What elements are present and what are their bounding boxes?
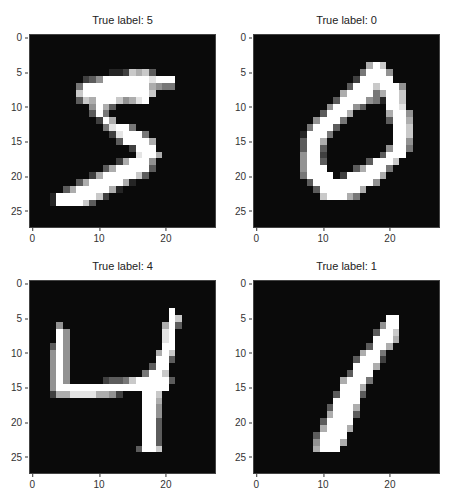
y-tick-label: 25: [2, 205, 22, 216]
x-tick-label: 0: [30, 233, 36, 244]
y-tick-label: 0: [226, 278, 246, 289]
y-tick-label: 20: [2, 171, 22, 182]
y-tick-label: 5: [226, 67, 246, 78]
subplot-title: True label: 0: [316, 14, 377, 26]
subplot-title: True label: 4: [92, 260, 153, 272]
x-tick-label: 0: [30, 479, 36, 490]
subplot-title: True label: 5: [92, 14, 153, 26]
y-tick-label: 15: [226, 136, 246, 147]
x-tick-label: 20: [384, 233, 395, 244]
x-tick-label: 0: [254, 479, 260, 490]
y-tick-label: 10: [2, 347, 22, 358]
y-tick-label: 25: [226, 205, 246, 216]
x-tick-label: 10: [318, 479, 329, 490]
y-tick-label: 5: [226, 313, 246, 324]
x-tick-label: 10: [318, 233, 329, 244]
y-tick-label: 5: [2, 67, 22, 78]
image-axes: [253, 280, 440, 474]
y-tick-label: 20: [2, 417, 22, 428]
x-tick-label: 0: [254, 233, 260, 244]
y-tick-label: 10: [226, 347, 246, 358]
y-tick-label: 0: [2, 278, 22, 289]
y-tick-label: 20: [226, 417, 246, 428]
digit-image: [30, 35, 215, 227]
y-tick-label: 25: [2, 451, 22, 462]
digit-image: [254, 35, 439, 227]
y-tick-label: 15: [226, 382, 246, 393]
image-axes: [253, 34, 440, 228]
x-tick-label: 10: [94, 479, 105, 490]
y-tick-label: 15: [2, 382, 22, 393]
x-tick-label: 20: [160, 233, 171, 244]
y-tick-label: 15: [2, 136, 22, 147]
digit-image: [254, 281, 439, 473]
x-tick-label: 20: [384, 479, 395, 490]
y-tick-label: 0: [226, 32, 246, 43]
digit-image: [30, 281, 215, 473]
y-tick-label: 10: [2, 101, 22, 112]
x-tick-label: 10: [94, 233, 105, 244]
y-tick-label: 0: [2, 32, 22, 43]
y-tick-label: 10: [226, 101, 246, 112]
y-tick-label: 20: [226, 171, 246, 182]
image-axes: [29, 34, 216, 228]
image-axes: [29, 280, 216, 474]
x-tick-label: 20: [160, 479, 171, 490]
y-tick-label: 25: [226, 451, 246, 462]
subplot-title: True label: 1: [316, 260, 377, 272]
y-tick-label: 5: [2, 313, 22, 324]
